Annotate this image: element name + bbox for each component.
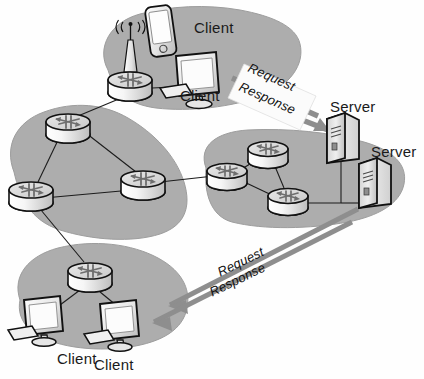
network-diagram: Client Client Server Server Client Clien… xyxy=(0,0,424,379)
router-core-left xyxy=(9,182,53,211)
router-branch-lan xyxy=(68,263,112,292)
label-client-bottom-right: Client xyxy=(94,356,134,373)
router-wireless-lan xyxy=(108,72,152,101)
label-client-bottom-left: Client xyxy=(57,350,97,367)
label-server-top: Server xyxy=(330,98,375,115)
router-core-right xyxy=(121,171,165,200)
router-farm-left xyxy=(207,164,247,191)
router-core-top xyxy=(46,114,90,143)
server-top xyxy=(327,113,359,163)
cloud-core-router-mesh-left xyxy=(11,105,187,239)
label-server-bottom: Server xyxy=(371,143,416,160)
server-bottom xyxy=(359,158,391,208)
label-client-desktop-top: Client xyxy=(180,87,220,104)
router-farm-bottom xyxy=(268,189,308,216)
diagram-canvas xyxy=(0,0,424,379)
label-client-phone: Client xyxy=(194,19,234,36)
router-farm-top xyxy=(248,142,288,169)
